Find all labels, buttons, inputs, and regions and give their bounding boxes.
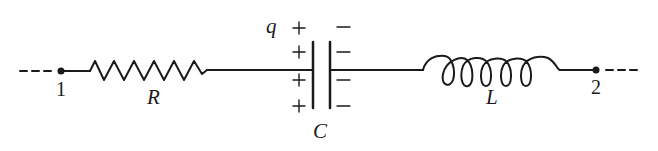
node-2-label: 2 (591, 77, 601, 97)
node-1-label: 1 (56, 79, 66, 99)
resistor-label: R (147, 87, 160, 108)
capacitor-plus-signs (293, 22, 305, 112)
capacitor-label: C (313, 121, 327, 142)
resistor-zigzag (90, 61, 207, 80)
inductor-coil (423, 56, 560, 86)
node-1-dot (58, 68, 65, 75)
capacitor-minus-signs (337, 27, 350, 106)
circuit-diagram (0, 0, 658, 151)
charge-label: q (266, 16, 277, 37)
node-2-dot (593, 67, 600, 74)
inductor-label: L (486, 87, 498, 108)
